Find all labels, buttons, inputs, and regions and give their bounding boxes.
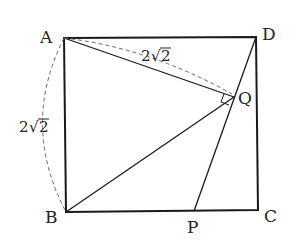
svg-text:√: √	[151, 47, 161, 65]
label-b: B	[45, 207, 58, 227]
segment-dp	[194, 37, 256, 211]
geometry-diagram: A B C D P Q 2 √ 2 2 √ 2	[0, 0, 300, 246]
svg-text:2: 2	[161, 47, 171, 65]
svg-text:2: 2	[19, 118, 29, 136]
right-angle-mark	[221, 94, 229, 105]
label-a: A	[39, 27, 53, 47]
label-p: P	[187, 217, 198, 237]
segment-bq	[66, 97, 234, 212]
label-d: D	[262, 24, 276, 44]
measure-aq-label: 2 √ 2	[141, 47, 171, 65]
svg-text:2: 2	[141, 47, 151, 65]
svg-text:2: 2	[39, 118, 49, 136]
measure-ab-label: 2 √ 2	[19, 118, 49, 136]
diagram-canvas: A B C D P Q 2 √ 2 2 √ 2	[0, 0, 300, 246]
svg-text:√: √	[29, 118, 39, 136]
label-c: C	[264, 206, 277, 226]
label-q: Q	[238, 88, 252, 108]
